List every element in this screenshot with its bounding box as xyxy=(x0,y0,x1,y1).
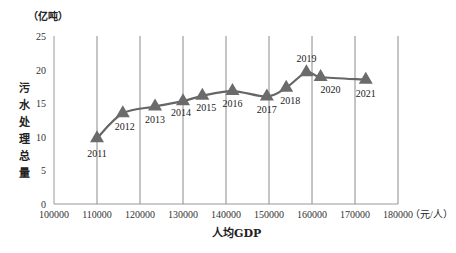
x-tick-label: 140000 xyxy=(211,209,241,220)
year-label: 2018 xyxy=(280,95,300,106)
y-title-char: 处 xyxy=(18,115,31,129)
x-tick-label: 100000 xyxy=(39,209,69,220)
y-tick-label: 10 xyxy=(36,132,46,143)
y-title-char: 理 xyxy=(19,133,30,146)
year-label: 2021 xyxy=(356,88,376,99)
year-label: 2012 xyxy=(115,121,135,132)
y-tick-label: 5 xyxy=(41,165,46,176)
year-label: 2020 xyxy=(321,84,341,95)
x-tick-label: 170000 xyxy=(340,209,370,220)
x-tick-label: 150000 xyxy=(254,209,284,220)
year-label: 2016 xyxy=(222,98,242,109)
y-title-char: 总 xyxy=(19,149,30,163)
year-label: 2017 xyxy=(257,104,277,115)
year-label: 2013 xyxy=(145,114,165,125)
x-axis-unit: （元/人） xyxy=(410,209,453,220)
triangle-marker xyxy=(359,72,373,84)
triangle-marker xyxy=(225,83,239,95)
y-title-char: 污 xyxy=(19,81,30,95)
y-title-char: 水 xyxy=(19,98,31,112)
x-tick-label: 110000 xyxy=(82,209,112,220)
y-tick-label: 15 xyxy=(36,98,46,109)
year-label: 2014 xyxy=(171,107,191,118)
x-axis-title: 人均GDP xyxy=(212,226,261,240)
vertical-gridlines xyxy=(97,36,398,204)
x-axis-ticks: 1000001100001200001300001400001500001600… xyxy=(39,209,413,220)
triangle-marker xyxy=(279,80,293,92)
scatter-line-chart: 0510152025 10000011000012000013000014000… xyxy=(0,0,456,253)
x-tick-label: 160000 xyxy=(297,209,327,220)
y-axis-title: 污水处理总量 xyxy=(18,81,31,180)
y-axis-ticks: 0510152025 xyxy=(36,31,46,210)
y-tick-label: 20 xyxy=(36,65,46,76)
data-labels: 2011201220132014201520162017201820192020… xyxy=(87,53,376,159)
y-tick-label: 25 xyxy=(36,31,46,42)
year-label: 2015 xyxy=(196,102,216,113)
year-label: 2011 xyxy=(87,148,107,159)
x-tick-label: 180000 xyxy=(383,209,413,220)
y-axis-unit: （亿吨） xyxy=(28,10,68,22)
x-tick-label: 120000 xyxy=(125,209,155,220)
year-label: 2019 xyxy=(296,53,316,64)
y-title-char: 量 xyxy=(19,167,30,180)
x-tick-label: 130000 xyxy=(168,209,198,220)
triangle-marker xyxy=(299,64,313,76)
